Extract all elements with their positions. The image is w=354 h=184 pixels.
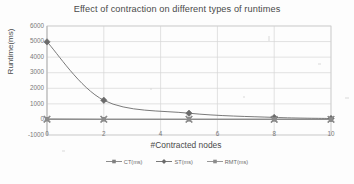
legend-item-rmtms[interactable]: RMT(ms) [207,158,248,165]
series-stms [44,39,334,122]
x-axis-tick: 8 [262,130,286,137]
plot-area [0,0,354,184]
x-axis-tick: 0 [35,130,59,137]
legend-marker-icon [156,158,172,165]
x-axis-tick: 10 [319,130,343,137]
series-rmtms [44,116,334,122]
legend-label: CT(ms) [124,159,143,165]
legend-label: ST(ms) [174,159,192,165]
data-point-marker [101,97,107,103]
series-line [47,42,331,119]
x-axis-tick: 4 [149,130,173,137]
data-point-marker [186,110,192,116]
x-axis-tick: 6 [205,130,229,137]
legend-item-ctms[interactable]: CT(ms) [106,158,143,165]
chart-legend: CT(ms)ST(ms)RMT(ms) [0,158,354,165]
x-axis-title: #Contracted nodes [40,140,332,150]
chart-container: Effect of contraction on different types… [0,0,354,184]
legend-marker-icon [207,158,223,165]
legend-marker-icon [106,158,122,165]
legend-item-stms[interactable]: ST(ms) [156,158,192,165]
x-axis-tick: 2 [92,130,116,137]
legend-label: RMT(ms) [225,159,248,165]
